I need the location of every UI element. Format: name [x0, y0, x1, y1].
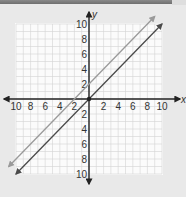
y-axis-label: y — [91, 9, 98, 20]
y-tick-label: 2 — [81, 109, 87, 120]
x-tick-label: 4 — [57, 101, 63, 112]
x-tick-label: 2 — [101, 101, 107, 112]
y-tick-label: 6 — [81, 49, 87, 60]
x-tick-label: 6 — [42, 101, 48, 112]
y-tick-label: 10 — [76, 169, 88, 180]
origin-point — [87, 97, 91, 101]
y-tick-label: 4 — [81, 64, 87, 75]
x-tick-label: 10 — [10, 101, 22, 112]
x-tick-label: 10 — [156, 101, 168, 112]
y-tick-label: 4 — [81, 124, 87, 135]
y-tick-label: 8 — [81, 154, 87, 165]
x-axis-label: x — [180, 94, 186, 105]
coordinate-plane: xy108642246810108642246810 — [0, 0, 186, 197]
x-tick-label: 8 — [28, 101, 34, 112]
x-tick-label: 4 — [115, 101, 121, 112]
x-tick-label: 6 — [130, 101, 136, 112]
y-tick-label: 8 — [81, 34, 87, 45]
x-tick-label: 2 — [72, 101, 78, 112]
y-tick-label: 10 — [76, 19, 88, 30]
y-tick-label: 6 — [81, 139, 87, 150]
x-tick-label: 8 — [145, 101, 151, 112]
